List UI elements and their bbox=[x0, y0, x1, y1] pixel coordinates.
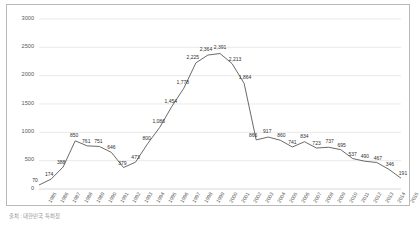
data-point-label: 2,364 bbox=[200, 46, 213, 52]
y-tick-label: 2500 bbox=[12, 43, 34, 49]
data-point-label: 1,778 bbox=[177, 79, 190, 85]
chart-canvas bbox=[7, 5, 411, 207]
data-point-label: 490 bbox=[361, 153, 369, 159]
data-point-label: 741 bbox=[288, 139, 296, 145]
data-point-label: 860 bbox=[277, 132, 285, 138]
y-tick-label: 500 bbox=[12, 156, 34, 162]
data-point-label: 473 bbox=[131, 154, 139, 160]
data-point-label: 467 bbox=[374, 155, 382, 161]
data-point-label: 346 bbox=[386, 161, 394, 167]
data-point-label: 1,454 bbox=[164, 98, 177, 104]
series-line bbox=[39, 54, 401, 186]
data-point-label: 1,864 bbox=[239, 74, 252, 80]
data-point-label: 70 bbox=[32, 177, 38, 183]
data-point-label: 834 bbox=[300, 133, 308, 139]
data-point-label: 695 bbox=[337, 142, 345, 148]
data-point-label: 723 bbox=[312, 140, 320, 146]
data-point-label: 850 bbox=[70, 132, 78, 138]
data-point-label: 379 bbox=[118, 160, 126, 166]
data-point-label: 917 bbox=[263, 128, 271, 134]
source-caption: 출처 : 대한민국 특허청 bbox=[9, 212, 60, 220]
data-point-label: 1,086 bbox=[152, 118, 165, 124]
y-tick-label: 3000 bbox=[12, 15, 34, 21]
y-tick-label: 0 bbox=[12, 185, 34, 191]
data-point-label: 2,391 bbox=[214, 44, 227, 50]
data-point-label: 800 bbox=[142, 135, 150, 141]
chart-plot-frame bbox=[6, 4, 410, 206]
data-point-label: 174 bbox=[45, 171, 53, 177]
data-point-label: 191 bbox=[399, 170, 407, 176]
y-tick-label: 2000 bbox=[12, 71, 34, 77]
data-point-label: 866 bbox=[249, 132, 257, 138]
data-point-label: 537 bbox=[349, 151, 357, 157]
data-point-label: 2,225 bbox=[187, 54, 200, 60]
y-tick-label: 1000 bbox=[12, 128, 34, 134]
y-tick-label: 1500 bbox=[12, 100, 34, 106]
data-point-label: 737 bbox=[325, 138, 333, 144]
data-point-label: 388 bbox=[57, 159, 65, 165]
data-point-label: 751 bbox=[94, 138, 102, 144]
data-point-label: 2,213 bbox=[229, 56, 242, 62]
data-point-label: 761 bbox=[82, 138, 90, 144]
data-point-label: 646 bbox=[107, 144, 115, 150]
